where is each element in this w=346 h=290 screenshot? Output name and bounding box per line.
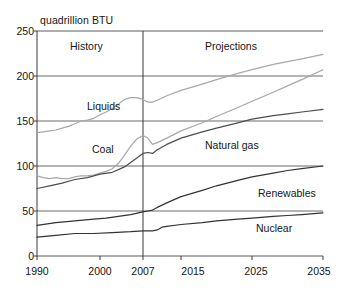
x-tick-2000: 2000 <box>84 266 116 277</box>
x-tick-2007: 2007 <box>127 266 159 277</box>
x-tick-2035: 2035 <box>303 266 335 277</box>
chart-figure: quadrillion BTU 250 200 150 100 50 0 199… <box>0 0 346 290</box>
series-label-natural-gas: Natural gas <box>205 139 259 151</box>
history-label: History <box>70 40 103 52</box>
x-tick-1990: 1990 <box>21 266 53 277</box>
series-label-renewables: Renewables <box>258 187 316 199</box>
series-label-nuclear: Nuclear <box>256 222 292 234</box>
projections-label: Projections <box>205 40 257 52</box>
series-label-coal: Coal <box>92 143 114 155</box>
y-tick-50: 50 <box>4 206 34 216</box>
x-tick-2015: 2015 <box>177 266 209 277</box>
y-tick-150: 150 <box>4 116 34 126</box>
x-tick-2025: 2025 <box>240 266 272 277</box>
y-tick-250: 250 <box>4 26 34 36</box>
y-tick-200: 200 <box>4 71 34 81</box>
plot-canvas <box>0 0 346 290</box>
y-tick-0: 0 <box>4 251 34 261</box>
series-label-liquids: Liquids <box>87 100 120 112</box>
y-tick-100: 100 <box>4 161 34 171</box>
